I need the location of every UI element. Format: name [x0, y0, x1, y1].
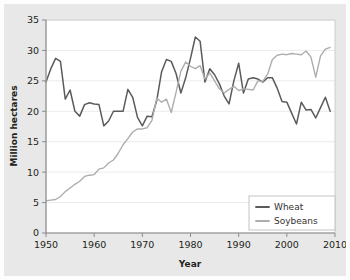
y-tick-label-20: 20 [27, 106, 39, 117]
x-tick-label-1950: 1950 [34, 239, 58, 250]
y-tick-label-15: 15 [27, 136, 39, 147]
y-tick-label-5: 5 [33, 197, 39, 208]
figure-background: 05101520253035 1950196019701980199020002… [4, 4, 346, 276]
line-chart: 05101520253035 1950196019701980199020002… [4, 4, 346, 276]
x-tick-label-1980: 1980 [178, 239, 202, 250]
x-tick-label-1970: 1970 [130, 239, 154, 250]
x-tick-label-1990: 1990 [227, 239, 251, 250]
x-tick-label-1960: 1960 [82, 239, 106, 250]
chart-figure: 05101520253035 1950196019701980199020002… [0, 0, 350, 280]
y-tick-label-0: 0 [33, 227, 39, 238]
y-axis-label: Million hectares [9, 85, 19, 166]
legend-label-soybeans[interactable]: Soybeans [274, 216, 318, 226]
x-tick-label-2000: 2000 [275, 239, 299, 250]
y-tick-label-10: 10 [27, 167, 39, 178]
legend-label-wheat[interactable]: Wheat [274, 202, 304, 212]
y-tick-label-30: 30 [27, 45, 39, 56]
x-axis-label: Year [178, 259, 202, 269]
chart-legend[interactable]: WheatSoybeans [249, 196, 335, 230]
y-tick-label-25: 25 [27, 75, 39, 86]
x-tick-label-2010: 2010 [323, 239, 346, 250]
y-tick-label-35: 35 [27, 14, 39, 25]
y-axis-ticks: 05101520253035 [27, 14, 46, 238]
x-axis-ticks: 1950196019701980199020002010 [34, 233, 346, 250]
